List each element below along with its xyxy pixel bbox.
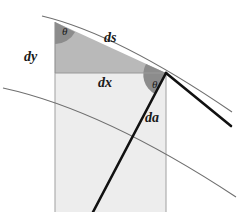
column-rect — [55, 73, 166, 212]
ds-label: ds — [104, 31, 116, 45]
theta-top-label: θ — [62, 26, 67, 37]
diagram-canvas: θ ds dy dx θ da — [0, 0, 242, 212]
dy-label: dy — [24, 50, 37, 64]
dx-label: dx — [98, 76, 112, 90]
theta-corner-label: θ — [152, 79, 157, 90]
geometry-figure — [0, 0, 242, 212]
tangent-line — [166, 73, 231, 126]
da-label: da — [145, 111, 159, 125]
